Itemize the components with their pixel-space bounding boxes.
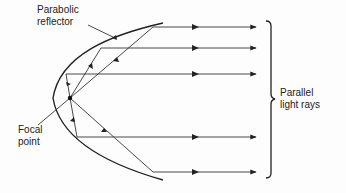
- parallel-light-rays-label: Parallel light rays: [280, 87, 320, 111]
- focal-label-line1: Focal: [18, 124, 42, 136]
- parabolic-reflector-diagram: Parabolic reflector Focal point Parallel…: [0, 0, 346, 193]
- incident-rays: [66, 27, 153, 172]
- incident-ray-arrowheads: [66, 35, 119, 132]
- parallel-rays: [66, 27, 256, 172]
- reflector-leader-line: [88, 25, 115, 38]
- focal-point-dot: [68, 96, 72, 100]
- rays-label-line2: light rays: [280, 99, 320, 111]
- focal-label-line2: point: [18, 136, 42, 148]
- reflector-label-line1: Parabolic: [37, 4, 79, 16]
- parabolic-reflector-curve: [53, 23, 163, 180]
- rays-label-line1: Parallel: [280, 87, 320, 99]
- curly-brace: [266, 21, 275, 178]
- parallel-ray-mid-arrowheads: [192, 24, 199, 175]
- reflector-label-line2: reflector: [37, 16, 79, 28]
- focal-point-label: Focal point: [18, 124, 42, 148]
- parabolic-reflector-label: Parabolic reflector: [37, 4, 79, 28]
